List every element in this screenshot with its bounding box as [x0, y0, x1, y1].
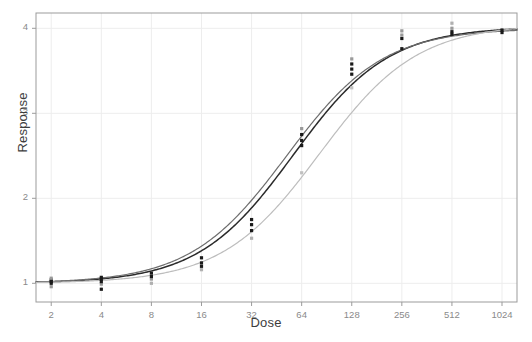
- chart-root: 1234 2481632641282565121024 Dose Respons…: [0, 0, 532, 342]
- dose-response-plot: [0, 0, 532, 342]
- data-point: [100, 276, 103, 279]
- data-point: [250, 237, 253, 240]
- data-point: [450, 22, 453, 25]
- data-point: [200, 268, 203, 271]
- plot-frame: [36, 13, 517, 302]
- data-point: [250, 229, 253, 232]
- data-point: [450, 30, 453, 33]
- data-point: [350, 86, 353, 89]
- grid-layer: [36, 13, 517, 302]
- data-point: [400, 29, 403, 32]
- data-point: [500, 28, 503, 31]
- fit-curves: [36, 29, 517, 283]
- data-point: [50, 277, 53, 280]
- data-point: [300, 133, 303, 136]
- data-point: [200, 256, 203, 259]
- data-point: [400, 47, 403, 50]
- y-axis-title: Response: [15, 63, 30, 183]
- data-point: [250, 218, 253, 221]
- data-point: [200, 261, 203, 264]
- data-point: [250, 223, 253, 226]
- y-tick-label: 4: [2, 21, 28, 32]
- data-points: [50, 22, 504, 291]
- x-axis-title: Dose: [0, 315, 532, 330]
- fit-curve-fit-light: [36, 29, 517, 283]
- fit-curve-fit-gray: [36, 30, 517, 281]
- data-point: [350, 57, 353, 60]
- data-point: [100, 288, 103, 291]
- data-point: [150, 275, 153, 278]
- data-point: [200, 265, 203, 268]
- fit-curve-fit-dark: [36, 29, 517, 282]
- data-point: [350, 62, 353, 65]
- data-point: [150, 272, 153, 275]
- data-point: [300, 171, 303, 174]
- data-point: [400, 34, 403, 37]
- data-point: [50, 285, 53, 288]
- y-tick-label: 2: [2, 191, 28, 202]
- data-point: [300, 139, 303, 142]
- data-point: [150, 282, 153, 285]
- frame-rect: [36, 13, 517, 302]
- data-point: [450, 27, 453, 30]
- y-tick-label: 1: [2, 276, 28, 287]
- data-point: [400, 37, 403, 40]
- data-point: [350, 68, 353, 71]
- data-point: [300, 127, 303, 130]
- data-point: [300, 144, 303, 147]
- axis-ticks: [32, 28, 502, 306]
- data-point: [350, 73, 353, 76]
